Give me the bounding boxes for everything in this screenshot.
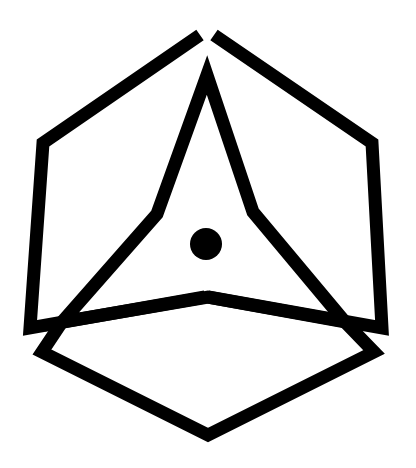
cube-triangle-icon [0,0,416,468]
logo-canvas: cube-triangle-logo [0,0,416,468]
left-face-outline [30,35,205,328]
right-face-outline [208,35,382,328]
bottom-face-outline [42,322,374,435]
inner-triangle-outline [62,75,345,322]
center-dot [190,228,222,260]
